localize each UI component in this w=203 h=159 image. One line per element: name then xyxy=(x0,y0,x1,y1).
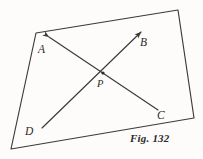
vertex-label-d: D xyxy=(25,126,33,138)
figure-caption: Fig. 132 xyxy=(130,133,170,144)
vertex-label-a: A xyxy=(38,44,45,56)
vertex-label-c: C xyxy=(157,110,165,122)
ray-d-to-b xyxy=(42,32,141,128)
intersection-label-p: P xyxy=(97,79,103,90)
intersection-point-p xyxy=(101,71,104,74)
geometry-figure: A B C D P Fig. 132 xyxy=(0,0,203,159)
vertex-label-b: B xyxy=(140,37,147,49)
